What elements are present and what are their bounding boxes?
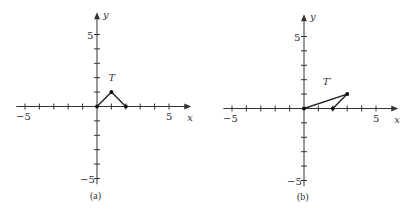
x-min-label: −5 [223,113,238,124]
vertex-dot [124,105,128,109]
y-axis-label: y [309,11,316,22]
y-max-label: 5 [294,32,300,43]
panel-caption: (a) [90,190,101,202]
x-axis-label: x [187,112,193,123]
y-axis-label: y [102,9,109,20]
vertex-dot [345,92,349,96]
y-axis-arrow-icon [94,12,100,19]
panel-caption: (b) [297,191,309,203]
axes: −555−5xy [16,9,193,184]
y-max-label: 5 [87,30,93,41]
panel-a: −555−5xyT(a) [0,0,205,218]
x-max-label: 5 [373,113,379,124]
vertex-dot [331,107,335,111]
x-axis-arrow-icon [391,106,398,112]
x-min-label: −5 [16,111,31,122]
triangle-b: T′ [302,76,349,110]
x-axis-label: x [394,114,400,125]
vertex-dot [109,90,113,94]
coordinate-plane-a: −555−5xyT(a) [0,0,205,218]
shape-label: T′ [323,76,333,87]
triangle-edges [304,94,347,108]
panel-b: −555−5xyT′(b) [205,0,409,218]
y-min-label: −5 [287,176,302,187]
x-max-label: 5 [166,111,172,122]
vertex-dot [302,107,306,111]
y-axis-arrow-icon [301,14,307,21]
y-min-label: −5 [80,174,95,185]
shape-label: T [108,72,116,83]
x-axis-arrow-icon [184,104,191,110]
axes: −555−5xy [223,11,400,186]
coordinate-plane-b: −555−5xyT′(b) [205,0,409,218]
vertex-dot [95,105,99,109]
